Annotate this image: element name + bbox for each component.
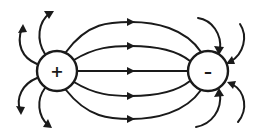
incoming-line-lower xyxy=(196,93,220,127)
arrow-right-icon xyxy=(127,92,135,100)
arrow-right-icon xyxy=(127,115,135,123)
outgoing-line-lower xyxy=(39,88,48,125)
outgoing-line-upper xyxy=(39,13,50,54)
positive-charge-symbol: + xyxy=(50,62,63,81)
field-line-lower xyxy=(74,81,190,96)
field-line-bottom xyxy=(66,90,201,119)
connecting-arrowheads xyxy=(127,18,135,123)
arrow-right-icon xyxy=(127,18,135,26)
negative-charge: – xyxy=(188,51,228,91)
incoming-line-lower-right xyxy=(232,84,244,122)
electric-field-diagram: + – xyxy=(0,0,260,138)
positive-charge: + xyxy=(37,51,77,91)
arrow-right-icon xyxy=(127,42,135,50)
incoming-line-upper xyxy=(198,18,220,50)
arrow-right-icon xyxy=(127,67,135,75)
arrow-out-icon xyxy=(16,106,25,115)
field-line-top xyxy=(66,22,201,52)
outgoing-line-lower-left xyxy=(19,78,37,110)
outgoing-line-upper-left xyxy=(20,28,37,64)
negative-charge-symbol: – xyxy=(204,62,212,81)
field-line-upper xyxy=(74,46,190,61)
arrow-out-icon xyxy=(18,24,27,33)
